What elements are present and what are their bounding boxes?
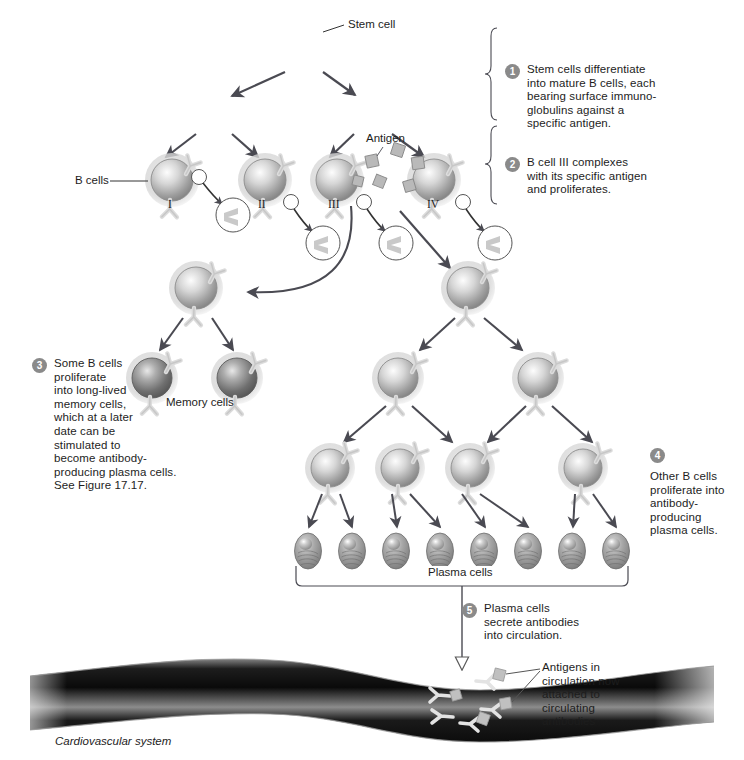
step-text-3: Some B cells proliferate into long-lived… (54, 357, 184, 493)
step-text-5: Plasma cells secrete antibodies into cir… (484, 602, 644, 643)
step-badge-5: 5 (462, 603, 477, 618)
plasma-cells-label: Plasma cells (425, 566, 496, 578)
step-badge-3: 3 (32, 358, 47, 373)
roman-numeral-IV: IV (427, 198, 439, 210)
cardiovascular-system-label: Cardiovascular system (55, 735, 171, 747)
antigen-label: Antigen (366, 132, 405, 144)
step-text-4: Other B cells proliferate into antibody-… (650, 470, 744, 538)
step-badge-4: 4 (650, 448, 665, 463)
roman-numeral-III: III (328, 198, 340, 210)
step-text-1: Stem cells differentiate into mature B c… (527, 63, 727, 131)
roman-numeral-I: I (168, 198, 172, 210)
step-text-2: B cell III complexes with its specific a… (527, 156, 727, 197)
figure-canvas: Stem cell Antigen B cells I II III IV Me… (0, 0, 744, 760)
stem-cell-label: Stem cell (348, 18, 395, 30)
b-cells-label: B cells (75, 174, 109, 186)
antigens-circulation-label: Antigens in circulation now attached to … (542, 661, 672, 729)
step-badge-2: 2 (505, 157, 520, 172)
step-badge-1: 1 (505, 64, 520, 79)
roman-numeral-II: II (258, 198, 266, 210)
